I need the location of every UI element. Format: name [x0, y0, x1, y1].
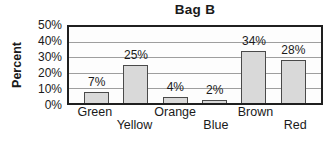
- bar-slot-brown: 34%: [234, 27, 273, 103]
- chart-title: Bag B: [67, 2, 323, 17]
- value-label-yellow: 25%: [116, 49, 155, 62]
- category-label-brown: Brown: [236, 106, 276, 119]
- chart-figure: Bag B Percent 0%10%20%30%40%50% 7%25%4%2…: [0, 0, 333, 147]
- category-label-yellow: Yellow: [115, 119, 155, 132]
- y-axis-ticks: 0%10%20%30%40%50%: [0, 0, 62, 147]
- bar-blue: [202, 100, 227, 103]
- y-tick-50: 50%: [0, 18, 62, 32]
- bar-orange: [163, 97, 188, 103]
- category-label-green: Green: [75, 106, 115, 119]
- bar-slot-red: 28%: [274, 27, 313, 103]
- bar-yellow: [123, 65, 148, 103]
- bar-slot-blue: 2%: [195, 27, 234, 103]
- value-label-green: 7%: [77, 76, 116, 89]
- bars-row: 7%25%4%2%34%28%: [69, 27, 321, 103]
- plot-area: 7%25%4%2%34%28%: [67, 25, 323, 105]
- y-tick-20: 20%: [0, 66, 62, 80]
- bar-slot-yellow: 25%: [116, 27, 155, 103]
- bar-slot-orange: 4%: [156, 27, 195, 103]
- category-label-orange: Orange: [154, 106, 196, 119]
- value-label-brown: 34%: [234, 35, 273, 48]
- bar-green: [84, 92, 109, 103]
- bar-red: [281, 60, 306, 103]
- value-label-blue: 2%: [195, 84, 234, 97]
- y-tick-0: 0%: [0, 98, 62, 112]
- value-label-orange: 4%: [156, 81, 195, 94]
- y-tick-10: 10%: [0, 82, 62, 96]
- category-label-red: Red: [275, 119, 315, 132]
- y-tick-40: 40%: [0, 34, 62, 48]
- bar-slot-green: 7%: [77, 27, 116, 103]
- x-axis-labels: GreenYellowOrangeBlueBrownRed: [67, 106, 323, 132]
- y-tick-30: 30%: [0, 50, 62, 64]
- value-label-red: 28%: [274, 44, 313, 57]
- bar-brown: [241, 51, 266, 103]
- category-label-blue: Blue: [196, 119, 236, 132]
